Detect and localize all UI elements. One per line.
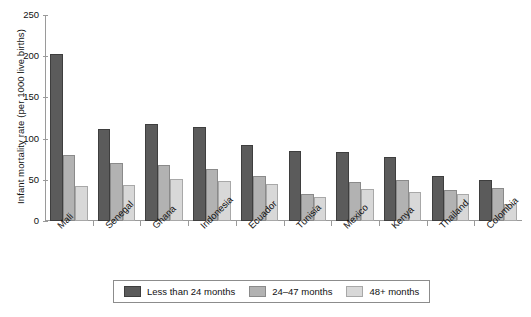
y-axis-tick-label: 250	[23, 9, 39, 20]
bar	[241, 145, 254, 221]
y-axis-tick-label: 150	[23, 91, 39, 102]
bar	[479, 180, 492, 221]
bar-group	[432, 15, 472, 221]
y-axis-tick-label: 0	[34, 215, 39, 226]
bar-group	[241, 15, 281, 221]
bar-chart: Infant mortality rate (per 1000 live bir…	[0, 0, 531, 317]
bar-groups	[45, 15, 522, 221]
bar-group	[479, 15, 519, 221]
legend-swatch	[249, 286, 266, 297]
y-axis-tick-label: 200	[23, 50, 39, 61]
y-axis-tick-label: 100	[23, 133, 39, 144]
bar	[63, 155, 76, 221]
legend-label: Less than 24 months	[147, 286, 235, 297]
bar-group	[98, 15, 138, 221]
legend-item: 24–47 months	[249, 286, 332, 297]
bar-group	[289, 15, 329, 221]
bar-group	[384, 15, 424, 221]
bar-group	[50, 15, 90, 221]
legend-swatch	[346, 286, 363, 297]
legend-item: Less than 24 months	[124, 286, 235, 297]
y-axis-tick: 200	[5, 51, 39, 61]
bar	[75, 186, 88, 221]
bar	[98, 129, 111, 221]
y-axis-tick: 0	[5, 216, 39, 226]
bar-group	[193, 15, 233, 221]
y-axis-tick: 100	[5, 134, 39, 144]
legend-label: 48+ months	[369, 286, 419, 297]
bar	[432, 176, 445, 221]
bar-group	[336, 15, 376, 221]
bar	[289, 151, 302, 221]
legend-label: 24–47 months	[272, 286, 332, 297]
y-axis-tick: 50	[5, 175, 39, 185]
x-axis-labels: MaliSenegalGhanaIndonesiaEcuadorTunisiaM…	[45, 223, 522, 275]
legend: Less than 24 months24–47 months48+ month…	[113, 280, 430, 303]
bar	[193, 127, 206, 221]
bar	[50, 54, 63, 221]
y-axis-title: Infant mortality rate (per 1000 live bir…	[15, 9, 26, 224]
bar-group	[145, 15, 185, 221]
y-axis-tick: 250	[5, 10, 39, 20]
plot-area: 050100150200250	[45, 15, 522, 221]
legend-item: 48+ months	[346, 286, 419, 297]
bar	[145, 124, 158, 221]
y-axis-tick-mark	[43, 221, 48, 222]
bar	[336, 152, 349, 221]
legend-swatch	[124, 286, 141, 297]
y-axis-tick-label: 50	[28, 174, 39, 185]
bar	[384, 157, 397, 221]
y-axis-tick: 150	[5, 92, 39, 102]
